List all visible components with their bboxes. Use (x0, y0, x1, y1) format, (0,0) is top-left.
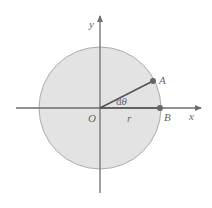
point-b-marker (157, 105, 163, 111)
angle-theta: θ (122, 95, 128, 107)
point-b-label: B (164, 111, 171, 123)
radius-label: r (127, 112, 132, 124)
point-a-marker (150, 78, 156, 84)
origin-label: O (88, 112, 96, 124)
angle-label: dθ (116, 95, 128, 107)
point-a-label: A (158, 74, 166, 86)
y-axis-label: y (88, 18, 94, 30)
polar-circle-diagram: y x O r A B dθ (0, 0, 212, 208)
x-axis-label: x (188, 110, 194, 122)
